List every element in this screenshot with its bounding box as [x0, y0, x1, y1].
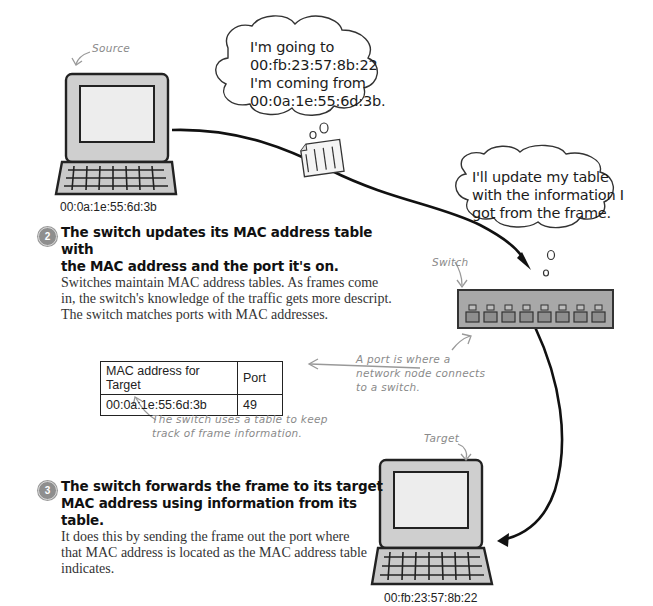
step-3-section: The switch forwards the frame to its tar…: [61, 478, 401, 577]
body-line: Switches maintain MAC address tables. As…: [61, 275, 401, 291]
note-line: to a switch.: [356, 380, 485, 394]
source-mac-address: 00:0a:1e:55:6d:3b: [60, 200, 157, 214]
step-2-heading: The switch updates its MAC address table…: [61, 224, 401, 275]
switch-label: Switch: [432, 256, 469, 268]
heading-line: The switch forwards the frame to its tar…: [61, 478, 401, 495]
arrowhead-to-target: [497, 533, 509, 547]
mac-address-table: MAC address for Target Port 00:0a:1e:55:…: [100, 361, 283, 416]
switch-bubble-text: I'll update my table with the informatio…: [472, 168, 624, 222]
thought-dot-large: [320, 123, 328, 133]
note-line: network node connects: [356, 366, 485, 380]
step-3-heading: The switch forwards the frame to its tar…: [61, 478, 401, 529]
network-cable-switch-to-target: [502, 327, 562, 540]
body-line: that MAC address is located as the MAC a…: [61, 545, 401, 561]
note-line: A port is where a: [356, 352, 485, 366]
source-callout-arrow: [76, 52, 90, 64]
frame-bubble-text: I'm going to 00:fb:23:57:8b:22 I'm comin…: [250, 38, 385, 110]
target-mac-address: 00:fb:23:57:8b:22: [384, 591, 477, 605]
note-line: The switch uses a table to keep: [152, 412, 328, 426]
body-line: indicates.: [61, 561, 401, 577]
step-number-badge: 3: [38, 481, 57, 500]
body-line: in, the switch's knowledge of the traffi…: [61, 291, 401, 307]
frame-bubble-line: 00:fb:23:57:8b:22: [250, 56, 385, 74]
frame-packet-icon: [300, 139, 344, 176]
heading-line: the MAC address and the port it's on.: [61, 258, 401, 275]
thought-dot-small: [544, 270, 549, 276]
target-callout-arrow: [458, 444, 467, 458]
step-3-body: It does this by sending the frame out th…: [61, 529, 401, 577]
body-line: The switch matches ports with MAC addres…: [61, 307, 401, 323]
step-2-section: The switch updates its MAC address table…: [61, 224, 401, 323]
step-2-body: Switches maintain MAC address tables. As…: [61, 275, 401, 323]
thought-dot-large: [548, 251, 555, 260]
note-line: track of frame information.: [152, 426, 328, 440]
step-number-badge: 2: [38, 227, 57, 246]
arrowhead-to-switch: [517, 252, 531, 270]
source-laptop-icon: [56, 74, 176, 194]
frame-bubble-line: I'm going to: [250, 38, 385, 56]
switch-bubble-line: with the information I: [472, 186, 624, 204]
table-annotation: The switch uses a table to keep track of…: [152, 412, 328, 440]
port-callout-arrow: [452, 336, 470, 350]
header-port: Port: [238, 362, 283, 395]
source-label: Source: [92, 42, 130, 54]
body-line: It does this by sending the frame out th…: [61, 529, 401, 545]
switch-bubble-line: I'll update my table: [472, 168, 624, 186]
heading-line: The switch updates its MAC address table…: [61, 224, 401, 258]
switch-bubble-line: got from the frame.: [472, 204, 624, 222]
target-label: Target: [424, 432, 459, 444]
switch-device-icon: [458, 290, 613, 328]
frame-bubble-line: I'm coming from: [250, 74, 385, 92]
frame-bubble-line: 00:0a:1e:55:6d:3b.: [250, 92, 385, 110]
port-annotation: A port is where a network node connects …: [356, 352, 485, 394]
heading-line: MAC address using information from its t…: [61, 495, 401, 529]
header-mac: MAC address for Target: [101, 362, 238, 395]
table-header-row: MAC address for Target Port: [101, 362, 283, 395]
thought-dot-small: [310, 132, 316, 139]
